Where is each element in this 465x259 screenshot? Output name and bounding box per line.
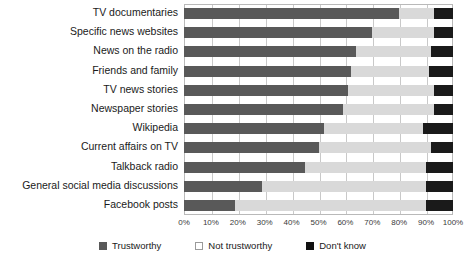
x-axis-tick-label: 80%: [391, 218, 407, 228]
bar-segment-not-trustworthy: [305, 162, 426, 173]
category-label: Wikipedia: [0, 122, 178, 133]
bar-segment-not-trustworthy: [235, 200, 426, 211]
category-label: Current affairs on TV: [0, 141, 178, 152]
legend-label: Don't know: [319, 240, 366, 252]
category-label: Friends and family: [0, 65, 178, 76]
category-label: Talkback radio: [0, 161, 178, 172]
bar-segment-don-t-know: [434, 8, 453, 19]
bar-segment-not-trustworthy: [262, 181, 426, 192]
bar-segment-trustworthy: [184, 200, 235, 211]
bar-segment-not-trustworthy: [343, 104, 434, 115]
category-axis-labels: TV documentariesSpecific news websitesNe…: [0, 4, 178, 215]
legend-swatch-icon: [306, 242, 314, 250]
bar-segment-not-trustworthy: [324, 123, 424, 134]
stacked-bar-chart: TV documentariesSpecific news websitesNe…: [0, 0, 465, 259]
bar-row: [184, 8, 453, 19]
x-axis-tick-label: 90%: [418, 218, 434, 228]
x-axis-tick-label: 40%: [284, 218, 300, 228]
bar-segment-not-trustworthy: [356, 46, 431, 57]
bar-row: [184, 104, 453, 115]
bar-segment-not-trustworthy: [319, 142, 432, 153]
bar-segment-trustworthy: [184, 46, 356, 57]
bar-row: [184, 123, 453, 134]
category-label: TV news stories: [0, 84, 178, 95]
bar-segment-don-t-know: [434, 85, 453, 96]
legend-swatch-icon: [195, 242, 203, 250]
bar-segment-don-t-know: [434, 27, 453, 38]
bar-segment-trustworthy: [184, 162, 305, 173]
bar-segment-don-t-know: [423, 123, 453, 134]
bar-segment-don-t-know: [434, 104, 453, 115]
bar-segment-trustworthy: [184, 66, 351, 77]
bar-row: [184, 200, 453, 211]
bar-row: [184, 142, 453, 153]
bar-segment-don-t-know: [426, 162, 453, 173]
category-label: Facebook posts: [0, 199, 178, 210]
bar-segment-not-trustworthy: [399, 8, 434, 19]
x-axis-tick-label: 20%: [230, 218, 246, 228]
bar-row: [184, 85, 453, 96]
legend-item[interactable]: Trustworthy: [99, 240, 161, 252]
bar-segment-don-t-know: [426, 200, 453, 211]
bar-segment-trustworthy: [184, 85, 348, 96]
bar-segment-trustworthy: [184, 181, 262, 192]
bar-row: [184, 66, 453, 77]
bar-rows: [184, 4, 453, 215]
bar-segment-don-t-know: [426, 181, 453, 192]
bar-segment-trustworthy: [184, 142, 319, 153]
category-label: General social media discussions: [0, 180, 178, 191]
bar-segment-trustworthy: [184, 104, 343, 115]
bar-segment-trustworthy: [184, 123, 324, 134]
category-label: News on the radio: [0, 45, 178, 56]
x-axis-tick-label: 60%: [337, 218, 353, 228]
bar-segment-don-t-know: [429, 66, 453, 77]
legend-swatch-icon: [99, 242, 107, 250]
legend-item[interactable]: Don't know: [306, 240, 366, 252]
x-axis-tick-label: 100%: [443, 218, 463, 228]
bar-segment-don-t-know: [431, 142, 453, 153]
bar-segment-trustworthy: [184, 27, 372, 38]
x-axis-tick-label: 10%: [203, 218, 219, 228]
legend-label: Trustworthy: [112, 240, 161, 252]
x-axis: 0%10%20%30%40%50%60%70%80%90%100%: [184, 218, 453, 230]
x-axis-tick-label: 70%: [364, 218, 380, 228]
bar-segment-not-trustworthy: [351, 66, 429, 77]
bar-row: [184, 46, 453, 57]
bar-segment-trustworthy: [184, 8, 399, 19]
x-axis-tick-label: 50%: [310, 218, 326, 228]
bar-row: [184, 181, 453, 192]
category-label: Newspaper stories: [0, 103, 178, 114]
x-axis-tick-label: 0%: [178, 218, 190, 228]
legend-item[interactable]: Not trustworthy: [195, 240, 272, 252]
category-label: Specific news websites: [0, 26, 178, 37]
bar-row: [184, 27, 453, 38]
bar-segment-don-t-know: [431, 46, 453, 57]
bar-segment-not-trustworthy: [348, 85, 434, 96]
chart-legend: TrustworthyNot trustworthyDon't know: [0, 240, 465, 252]
x-axis-tick-label: 30%: [257, 218, 273, 228]
legend-label: Not trustworthy: [208, 240, 272, 252]
bar-segment-not-trustworthy: [372, 27, 434, 38]
category-label: TV documentaries: [0, 7, 178, 18]
bar-row: [184, 162, 453, 173]
